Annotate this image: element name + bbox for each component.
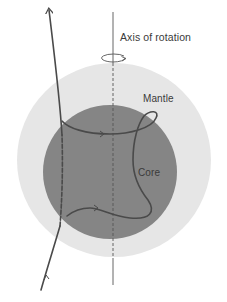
axis-of-rotation-label: Axis of rotation bbox=[120, 32, 191, 43]
core-label: Core bbox=[138, 168, 160, 178]
mantle-label: Mantle bbox=[143, 94, 174, 104]
earth-rotation-diagram bbox=[0, 0, 227, 302]
rotation-arrow-icon bbox=[102, 54, 126, 62]
